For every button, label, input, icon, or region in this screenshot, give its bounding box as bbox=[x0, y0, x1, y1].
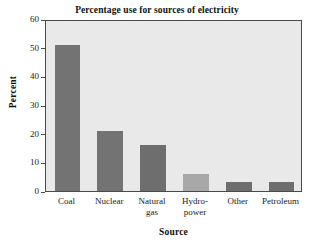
x-axis-title: Source bbox=[45, 227, 302, 237]
x-axis-tick-label-line: gas bbox=[131, 207, 174, 218]
bar bbox=[269, 182, 295, 191]
chart-title: Percentage use for sources of electricit… bbox=[0, 5, 314, 15]
x-axis-tick-label: Nuclear bbox=[88, 196, 131, 207]
x-axis-tick-label: Naturalgas bbox=[131, 196, 174, 217]
x-axis-tick-label: Petroleum bbox=[259, 196, 302, 207]
x-axis-tick-label-line: Natural bbox=[131, 196, 174, 207]
y-axis-tick-label: 30 bbox=[14, 101, 39, 110]
x-axis-tick-label: Hydro-power bbox=[174, 196, 217, 217]
x-axis-tick-label: Coal bbox=[45, 196, 88, 207]
x-axis-tick-label-line: Nuclear bbox=[88, 196, 131, 207]
x-axis-tick-label-line: Coal bbox=[45, 196, 88, 207]
y-axis-tick-label: 10 bbox=[14, 158, 39, 167]
y-axis-tick-label: 40 bbox=[14, 72, 39, 81]
plot-area bbox=[46, 21, 301, 191]
bar bbox=[55, 45, 81, 191]
x-axis-tick-label-line: Hydro- bbox=[174, 196, 217, 207]
bar bbox=[183, 174, 209, 191]
x-axis-tick-label: Other bbox=[216, 196, 259, 207]
bar bbox=[140, 145, 166, 191]
bar bbox=[97, 131, 123, 191]
bar bbox=[226, 182, 252, 191]
plot-frame bbox=[45, 20, 302, 192]
x-axis-tick-label-line: Other bbox=[216, 196, 259, 207]
x-axis-tick-label-line: Petroleum bbox=[259, 196, 302, 207]
bar-chart-figure: Percentage use for sources of electricit… bbox=[0, 0, 314, 249]
y-axis-tick-label: 20 bbox=[14, 130, 39, 139]
y-axis-tick-label: 0 bbox=[14, 187, 39, 196]
y-axis-tick-label: 50 bbox=[14, 44, 39, 53]
y-axis-tick-label: 60 bbox=[14, 15, 39, 24]
x-axis-tick-label-line: power bbox=[174, 207, 217, 218]
y-axis-title: Percent bbox=[8, 62, 18, 122]
